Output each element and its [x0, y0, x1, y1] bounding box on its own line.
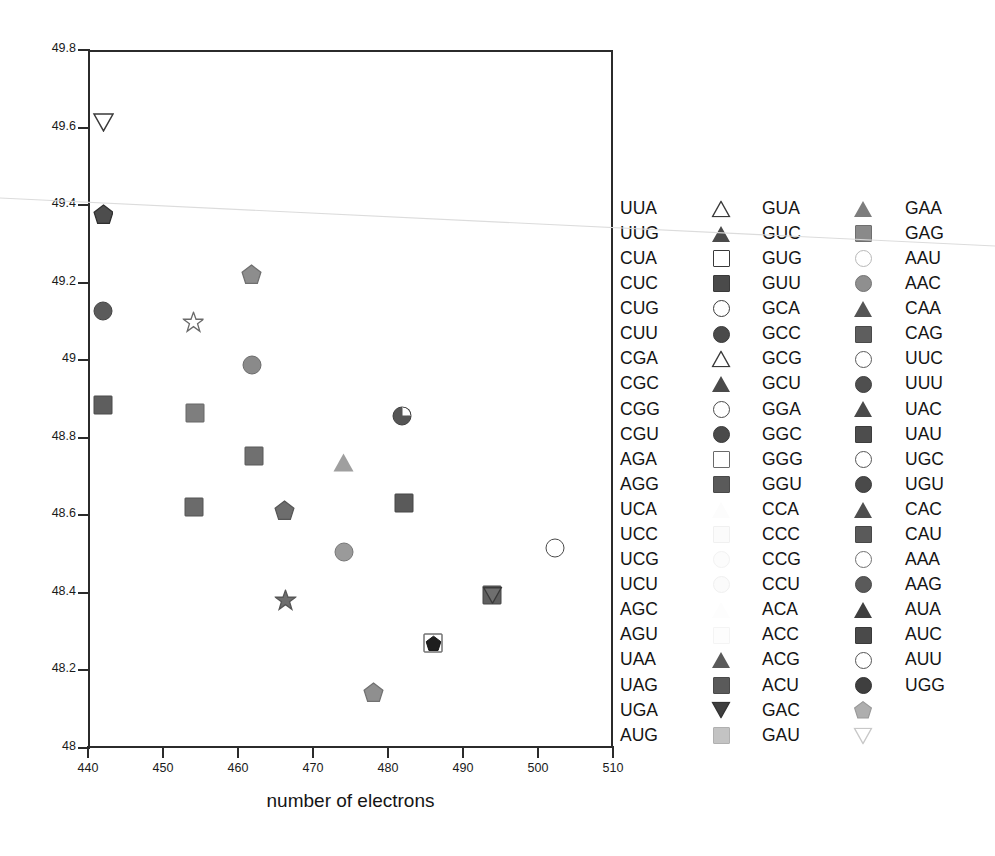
- legend-item[interactable]: CUU: [620, 321, 744, 346]
- legend-item[interactable]: GUA: [762, 196, 886, 221]
- legend-item[interactable]: AGC: [620, 598, 744, 623]
- legend-item[interactable]: AUA: [905, 598, 957, 623]
- legend-item-label: GGA: [762, 401, 814, 419]
- legend-item[interactable]: AUU: [905, 648, 957, 673]
- legend-item-marker: [840, 522, 886, 547]
- legend-column-2: GUAGUCGUGGUUGCAGCCGCGGCUGGAGGCGGGGGUCCAC…: [762, 196, 886, 748]
- x-tick-label: 450: [133, 762, 193, 775]
- legend-item[interactable]: GCC: [762, 321, 886, 346]
- legend-item[interactable]: UGC: [905, 447, 957, 472]
- legend-item[interactable]: GCU: [762, 372, 886, 397]
- data-point: [424, 634, 443, 653]
- legend-item[interactable]: AAU: [905, 246, 957, 271]
- legend-item-label: CCC: [762, 526, 814, 544]
- legend-item[interactable]: CUC: [620, 271, 744, 296]
- x-tick-label: 510: [583, 762, 643, 775]
- legend-item[interactable]: CUG: [620, 296, 744, 321]
- legend-item-label: AAG: [905, 576, 957, 594]
- legend-item[interactable]: AAC: [905, 271, 957, 296]
- legend-item[interactable]: GAG: [905, 221, 957, 246]
- data-point: [244, 447, 263, 466]
- y-tick-label: 48.2: [20, 662, 76, 675]
- legend-item[interactable]: ACA: [762, 598, 886, 623]
- legend-item-label: AGA: [620, 451, 672, 469]
- legend-item[interactable]: UAC: [905, 397, 957, 422]
- legend-item[interactable]: UCC: [620, 522, 744, 547]
- legend-item-label: AGU: [620, 626, 672, 644]
- legend-item[interactable]: CGU: [620, 422, 744, 447]
- legend-item[interactable]: UGG: [905, 673, 957, 698]
- legend-item[interactable]: GUC: [762, 221, 886, 246]
- legend-item[interactable]: AGU: [620, 623, 744, 648]
- legend-item[interactable]: CGG: [620, 397, 744, 422]
- legend-item[interactable]: GAA: [905, 196, 957, 221]
- legend-item[interactable]: AAG: [905, 572, 957, 597]
- legend-item-marker: [698, 422, 744, 447]
- legend-item-label: UCU: [620, 576, 672, 594]
- legend-item-label: UGG: [905, 677, 957, 695]
- legend-item[interactable]: CAG: [905, 321, 957, 346]
- legend-item[interactable]: AGA: [620, 447, 744, 472]
- legend-item[interactable]: GCA: [762, 296, 886, 321]
- legend-column-3: GAAGAGAAUAACCAACAGUUCUUUUACUAUUGCUGUCACC…: [905, 196, 957, 698]
- legend-item-label: AAA: [905, 551, 957, 569]
- legend-item[interactable]: AGG: [620, 472, 744, 497]
- legend-item-marker: [840, 472, 886, 497]
- legend-item[interactable]: GAC: [762, 698, 886, 723]
- legend-item[interactable]: UUU: [905, 372, 957, 397]
- legend-item-marker: [840, 447, 886, 472]
- legend-item[interactable]: UUG: [620, 221, 744, 246]
- legend-item-marker: [698, 547, 744, 572]
- legend-item[interactable]: UCU: [620, 572, 744, 597]
- y-tick-label: 49.2: [20, 275, 76, 288]
- legend-item[interactable]: UAA: [620, 648, 744, 673]
- data-point: [94, 113, 113, 132]
- legend-item[interactable]: AAA: [905, 547, 957, 572]
- legend-item-label: GUA: [762, 200, 814, 218]
- legend-item[interactable]: ACU: [762, 673, 886, 698]
- legend-item[interactable]: ACC: [762, 623, 886, 648]
- legend-item-marker: [698, 296, 744, 321]
- legend-item[interactable]: CUA: [620, 246, 744, 271]
- legend-item[interactable]: GUG: [762, 246, 886, 271]
- legend-item[interactable]: UUA: [620, 196, 744, 221]
- legend-item[interactable]: AUC: [905, 623, 957, 648]
- legend-item-label: GGG: [762, 451, 814, 469]
- legend-item[interactable]: CGC: [620, 372, 744, 397]
- legend-item[interactable]: GAU: [762, 723, 886, 748]
- legend-item[interactable]: GCG: [762, 347, 886, 372]
- legend-item[interactable]: GUU: [762, 271, 886, 296]
- legend-item[interactable]: ACG: [762, 648, 886, 673]
- legend-item-label: CAU: [905, 526, 957, 544]
- legend-item[interactable]: CCU: [762, 572, 886, 597]
- legend-item-marker: [698, 598, 744, 623]
- legend-item[interactable]: GGU: [762, 472, 886, 497]
- legend-item-marker: [698, 623, 744, 648]
- legend-item[interactable]: CAU: [905, 522, 957, 547]
- legend: UUAUUGCUACUCCUGCUUCGACGCCGGCGUAGAAGGUCAU…: [620, 196, 995, 752]
- legend-item-label: GAA: [905, 200, 957, 218]
- data-point: [242, 265, 261, 284]
- legend-item[interactable]: GGC: [762, 422, 886, 447]
- legend-item[interactable]: GGG: [762, 447, 886, 472]
- legend-item[interactable]: UGU: [905, 472, 957, 497]
- legend-item[interactable]: CCA: [762, 497, 886, 522]
- legend-item-label: CGC: [620, 375, 672, 393]
- legend-item[interactable]: UAG: [620, 673, 744, 698]
- legend-item[interactable]: CCC: [762, 522, 886, 547]
- legend-item[interactable]: UCG: [620, 547, 744, 572]
- data-point: [394, 493, 413, 512]
- legend-item[interactable]: CGA: [620, 347, 744, 372]
- legend-item[interactable]: UCA: [620, 497, 744, 522]
- legend-item[interactable]: UUC: [905, 347, 957, 372]
- legend-item-marker: [840, 723, 886, 748]
- legend-item[interactable]: CAC: [905, 497, 957, 522]
- legend-item[interactable]: CAA: [905, 296, 957, 321]
- legend-item-label: UUG: [620, 225, 672, 243]
- legend-item[interactable]: UGA: [620, 698, 744, 723]
- legend-item[interactable]: UAU: [905, 422, 957, 447]
- legend-item[interactable]: CCG: [762, 547, 886, 572]
- legend-item[interactable]: AUG: [620, 723, 744, 748]
- legend-item[interactable]: GGA: [762, 397, 886, 422]
- data-point: [184, 313, 203, 332]
